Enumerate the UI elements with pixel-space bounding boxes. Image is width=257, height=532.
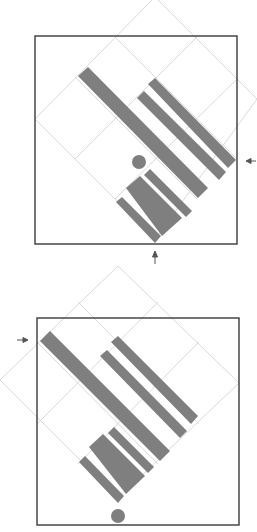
bottom-dot bbox=[111, 509, 125, 523]
top-panel bbox=[35, 0, 257, 264]
bottom-arrow-left-side-icon bbox=[17, 338, 28, 343]
top-arrow-bottom-icon bbox=[153, 251, 158, 264]
top-bar-long bbox=[78, 67, 208, 198]
bottom-panel bbox=[0, 266, 239, 525]
top-arrow-right-side-icon bbox=[246, 159, 256, 164]
top-dot bbox=[132, 155, 146, 169]
top-bars bbox=[78, 67, 236, 243]
diagram-canvas bbox=[0, 0, 257, 532]
bottom-bars bbox=[40, 331, 198, 503]
bottom-bar-lower-wide bbox=[89, 434, 145, 494]
